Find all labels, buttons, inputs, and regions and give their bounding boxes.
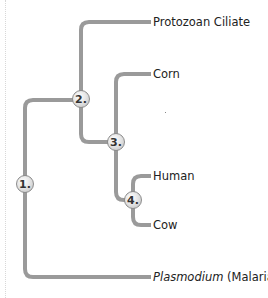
branch-1-to-2 <box>25 100 81 184</box>
stray-dot <box>165 112 166 113</box>
branch-3-to-corn <box>116 74 151 142</box>
leaf-plasmodium-common: (Malaria) <box>223 270 268 284</box>
leaf-cow: Cow <box>153 218 177 232</box>
node-2: 2. <box>72 90 90 108</box>
leaf-plasmodium: Plasmodium (Malaria) <box>153 270 268 284</box>
leaf-protozoan-ciliate: Protozoan Ciliate <box>153 15 250 29</box>
node-3: 3. <box>107 133 125 151</box>
node-4: 4. <box>124 191 142 209</box>
leaf-human: Human <box>153 169 194 183</box>
node-1: 1. <box>16 175 34 193</box>
tree-branches <box>0 0 268 298</box>
leaf-plasmodium-genus: Plasmodium <box>153 270 223 284</box>
leaf-corn: Corn <box>153 67 180 81</box>
